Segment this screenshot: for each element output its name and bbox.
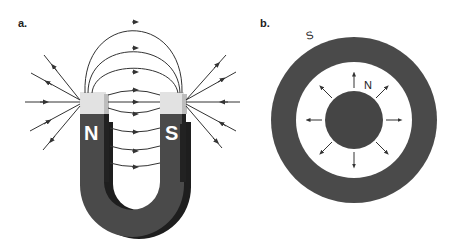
inner-pole-label: N (364, 79, 372, 91)
field-lines (25, 22, 240, 167)
north-pole-label: N (84, 122, 98, 144)
south-pole-label: S (165, 122, 178, 144)
outer-pole-label: S (304, 28, 314, 41)
ring-magnet: S N (271, 28, 437, 203)
magnet-diagram: N S (0, 0, 456, 249)
